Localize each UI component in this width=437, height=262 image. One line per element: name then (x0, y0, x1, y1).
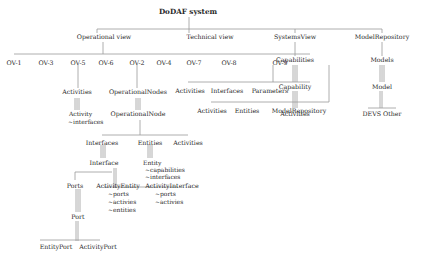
entity-attr-capabilities: ~capabilities (145, 166, 185, 173)
ov-1-node: OV-1 (6, 59, 21, 66)
entities-node: Entities (138, 139, 163, 146)
systems-view-node: SystemsView (274, 33, 316, 40)
operational-activities-node: Activities (173, 139, 203, 146)
ov9-activities-node: Activities (197, 107, 227, 114)
entity-node: Entity (143, 159, 161, 166)
operational-node-node: OperationalNode (111, 110, 166, 117)
activity-entity-attr-entities: ~entities (108, 206, 136, 213)
ov-3-node: OV-3 (38, 59, 53, 66)
ports-node: Ports (67, 182, 84, 189)
capability-node: Capability (279, 83, 312, 90)
ov5-activities-node: Activities (62, 88, 92, 95)
ov5-activity-node: Activity (69, 110, 92, 117)
ov-6-node: OV-6 (98, 59, 113, 66)
systems-activities-node: Activities (280, 110, 310, 117)
entity-port-node: EntityPort (40, 243, 73, 250)
activity-interface-node: ActivityInterface (145, 182, 198, 189)
ov8-activities-node: Activities (175, 87, 205, 94)
operational-nodes-node: OperationalNodes (109, 88, 167, 95)
ov-8-node: OV-8 (221, 59, 236, 66)
root-node: DoDAF system (159, 8, 217, 15)
operational-view-node: Operational view (77, 33, 132, 40)
activity-entity-node: ActivityEntity (96, 182, 140, 189)
ov5-activity-attr: ~interfaces (68, 118, 103, 125)
ov-4-node: OV-4 (156, 59, 171, 66)
entity-attr-interfaces: ~interfaces (145, 173, 180, 180)
ov9-entities-node: Entities (235, 107, 260, 114)
capabilities-node: Capabilities (276, 56, 314, 63)
model-repository-view-node: ModelRepository (355, 33, 409, 40)
activity-port-node: ActivityPort (79, 243, 117, 250)
activity-entity-attr-ports: ~ports (108, 190, 129, 197)
ov8-interfaces-node: Interfaces (211, 87, 243, 94)
interface-node: Interface (89, 159, 118, 166)
ov-5-node: OV-5 (70, 59, 85, 66)
ov-7-node: OV-7 (186, 59, 201, 66)
dodaf-tree-diagram: DoDAF system Operational view Technical … (0, 0, 437, 262)
activity-interface-attr-ports: ~ports (155, 190, 176, 197)
port-node: Port (71, 213, 84, 220)
model-node: Model (372, 83, 392, 90)
interfaces-node: Interfaces (86, 139, 118, 146)
devs-other-node: DEVS Other (363, 110, 402, 117)
ov-2-node: OV-2 (129, 59, 144, 66)
activity-interface-attr-activies: ~activies (155, 198, 183, 205)
models-node: Models (370, 56, 393, 63)
activity-entity-attr-activies: ~activies (108, 198, 136, 205)
technical-view-node: Technical view (186, 33, 233, 40)
